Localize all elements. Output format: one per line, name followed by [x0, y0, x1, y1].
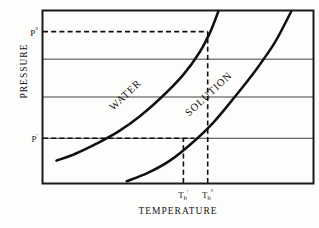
plot-area: WATER SOLUTION: [0, 0, 319, 228]
chart-figure: PRESSURE TEMPERATURE P° P′ Tb′ Tb° WATER…: [0, 0, 319, 228]
guide-lines: [43, 32, 208, 183]
series-label-water: WATER: [107, 77, 143, 112]
series-label-solution: SOLUTION: [183, 70, 234, 119]
gridlines: [43, 59, 313, 138]
